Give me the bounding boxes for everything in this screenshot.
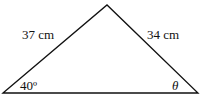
side-right-label: 34 cm	[147, 27, 179, 42]
angle-bottom-left-label: 40º	[20, 78, 37, 93]
side-left-label: 37 cm	[22, 27, 54, 42]
angle-bottom-right-label: θ	[172, 78, 179, 93]
triangle-diagram: 37 cm 34 cm 40º θ	[0, 0, 200, 97]
